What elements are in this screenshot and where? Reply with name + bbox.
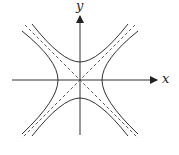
y-axis-label: y bbox=[76, 0, 83, 13]
hyperbola-diagram bbox=[0, 0, 179, 155]
x-axis-label: x bbox=[162, 71, 169, 86]
